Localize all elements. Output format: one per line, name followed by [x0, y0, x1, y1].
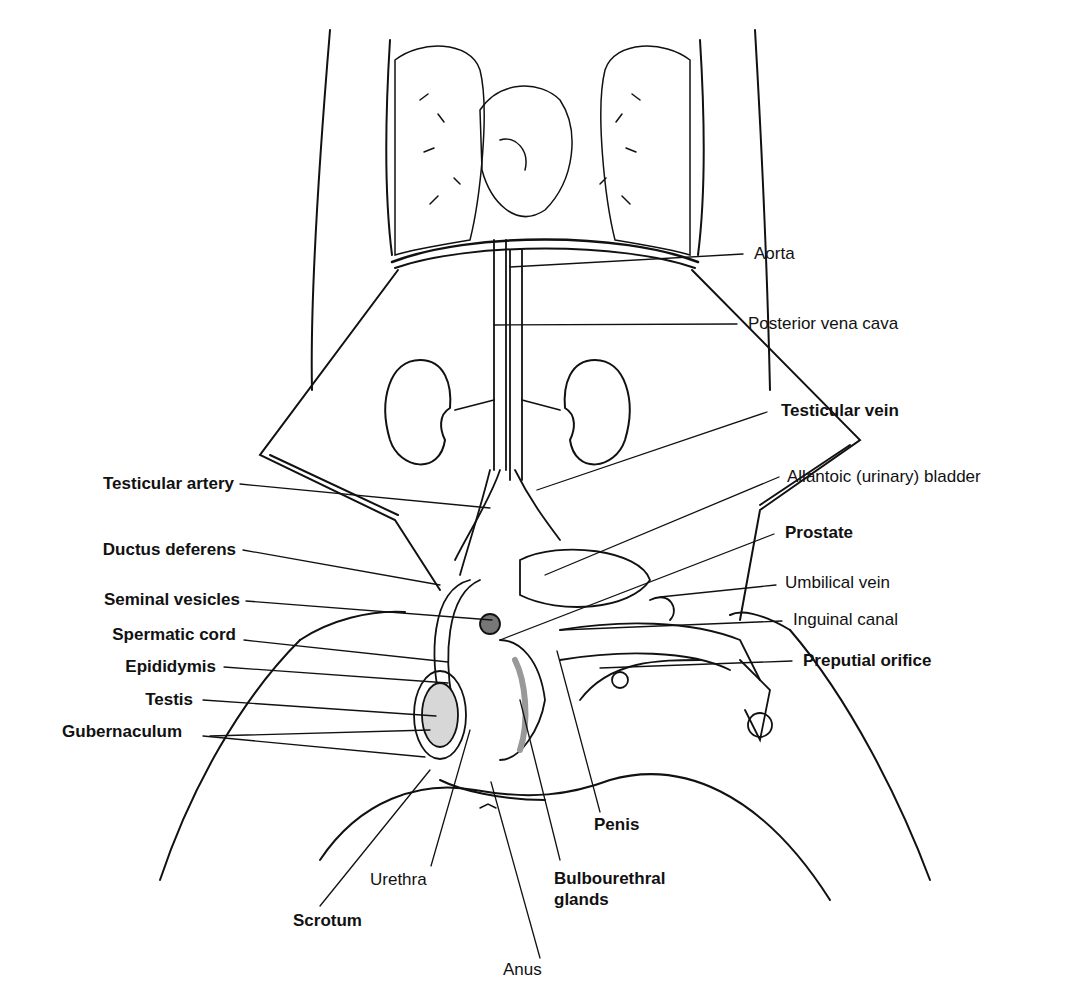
label-urethra: Urethra: [370, 870, 427, 890]
label-bulbourethral-line1: Bulbourethral: [554, 868, 665, 889]
leader-lines: [203, 254, 792, 958]
label-penis: Penis: [594, 815, 639, 835]
label-allantoic-bladder: Allantoic (urinary) bladder: [787, 467, 981, 487]
label-scrotum: Scrotum: [293, 911, 362, 931]
label-umbilical-vein: Umbilical vein: [785, 573, 890, 593]
body-outline: [160, 30, 930, 900]
label-inguinal-canal: Inguinal canal: [793, 610, 898, 630]
anatomy-drawing: [0, 0, 1092, 1007]
label-preputial-orifice: Preputial orifice: [803, 651, 931, 671]
label-aorta: Aorta: [754, 244, 795, 264]
label-ductus-deferens: Ductus deferens: [28, 540, 236, 560]
great-vessels: [455, 240, 560, 480]
label-anus: Anus: [503, 960, 542, 980]
label-testicular-vein: Testicular vein: [781, 401, 899, 421]
label-testis: Testis: [28, 690, 193, 710]
label-posterior-vena-cava: Posterior vena cava: [748, 314, 898, 334]
kidneys: [385, 360, 629, 464]
label-testicular-artery: Testicular artery: [28, 474, 234, 494]
label-epididymis: Epididymis: [28, 657, 216, 677]
label-spermatic-cord: Spermatic cord: [28, 625, 236, 645]
label-bulbourethral-glands: Bulbourethral glands: [554, 868, 665, 910]
thorax: [395, 46, 690, 255]
label-bulbourethral-line2: glands: [554, 889, 665, 910]
reproductive-organs: [414, 470, 772, 760]
label-seminal-vesicles: Seminal vesicles: [28, 590, 240, 610]
label-gubernaculum: Gubernaculum: [18, 722, 182, 742]
label-prostate: Prostate: [785, 523, 853, 543]
